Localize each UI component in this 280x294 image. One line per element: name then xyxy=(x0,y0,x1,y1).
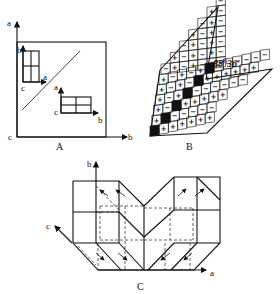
plus-sign: + xyxy=(155,106,161,114)
panel-b: 88°36′ +−+−+−−−−−−+−+−+++++++−+−−−−−−+−+… xyxy=(150,0,272,152)
plus-sign: + xyxy=(161,76,167,84)
lower-cell-label-b: b xyxy=(98,115,103,125)
main-cell xyxy=(161,112,170,123)
main-cell xyxy=(150,125,159,136)
plus-sign: + xyxy=(209,49,215,57)
plus-sign: + xyxy=(190,41,196,49)
axis-label-c: c xyxy=(8,132,12,142)
minus-sign: − xyxy=(188,69,194,77)
plus-sign: + xyxy=(209,29,215,37)
axis-label-c: c xyxy=(46,221,50,231)
minus-sign: − xyxy=(199,20,205,28)
minus-sign: − xyxy=(181,63,187,71)
caption-a: A xyxy=(56,141,64,152)
upper-cell-label-b: b xyxy=(17,45,22,55)
minus-sign: − xyxy=(231,79,237,87)
plus-sign: + xyxy=(192,98,198,106)
plus-sign: + xyxy=(159,86,165,94)
minus-sign: − xyxy=(218,7,224,15)
plus-sign: + xyxy=(190,62,196,70)
minus-sign: − xyxy=(240,76,246,84)
minus-sign: − xyxy=(218,28,224,36)
minus-sign: − xyxy=(199,30,205,38)
plus-sign: + xyxy=(190,52,196,60)
axis-label-b: b xyxy=(87,159,92,169)
sign-grid: +−+−+−−−−−−+−+−+++++++−+−−−−−−+−++++++−−… xyxy=(150,0,269,136)
plus-sign: + xyxy=(175,92,181,100)
caption-b: B xyxy=(186,141,193,152)
lower-cell-label-c: c xyxy=(54,107,58,117)
minus-sign: − xyxy=(212,83,218,91)
plus-sign: + xyxy=(172,54,178,62)
plus-sign: + xyxy=(214,73,220,81)
upper-cell-label-a: a xyxy=(43,72,47,82)
lower-cell-label-a: a xyxy=(54,82,58,92)
minus-sign: − xyxy=(199,40,205,48)
plus-sign: + xyxy=(209,60,215,68)
minus-sign: − xyxy=(218,38,224,46)
axis-label-b: b xyxy=(128,132,133,142)
minus-sign: − xyxy=(199,106,205,114)
minus-sign: − xyxy=(218,59,224,67)
axis-c xyxy=(55,226,72,243)
right-twin-block xyxy=(144,177,220,270)
plus-sign: + xyxy=(177,81,183,89)
plus-sign: + xyxy=(188,118,194,126)
minus-sign: − xyxy=(218,48,224,56)
plus-sign: + xyxy=(179,120,185,128)
minus-sign: − xyxy=(181,42,187,50)
plus-sign: + xyxy=(157,96,163,104)
minus-sign: − xyxy=(172,112,178,120)
minus-sign: − xyxy=(234,58,240,66)
minus-sign: − xyxy=(243,56,249,64)
axis-label-a: a xyxy=(210,268,214,278)
plus-sign: + xyxy=(232,68,238,76)
minus-sign: − xyxy=(170,73,176,81)
minus-sign: − xyxy=(209,104,215,112)
plus-sign: + xyxy=(209,8,215,16)
plus-sign: + xyxy=(153,117,159,125)
minus-sign: − xyxy=(218,17,224,25)
plus-sign: + xyxy=(209,39,215,47)
plus-sign: + xyxy=(220,91,226,99)
minus-sign: − xyxy=(164,104,170,112)
minus-sign: − xyxy=(181,110,187,118)
plus-sign: + xyxy=(161,125,167,133)
plus-sign: + xyxy=(170,123,176,131)
plus-sign: + xyxy=(183,100,189,108)
minus-sign: − xyxy=(199,51,205,59)
plus-sign: + xyxy=(190,31,196,39)
left-twin-block xyxy=(73,181,144,270)
minus-sign: − xyxy=(199,61,205,69)
minus-sign: − xyxy=(181,53,187,61)
main-cell xyxy=(194,75,203,86)
main-cell xyxy=(183,87,192,98)
minus-sign: − xyxy=(186,79,192,87)
minus-sign: − xyxy=(253,54,259,62)
plus-sign: + xyxy=(209,19,215,27)
panel-a: a b c b a c a b c A xyxy=(7,18,133,152)
minus-sign: − xyxy=(166,94,172,102)
minus-sign: − xyxy=(168,84,174,92)
plus-sign: + xyxy=(205,75,211,83)
minus-sign: − xyxy=(262,51,268,59)
plus-sign: + xyxy=(223,70,229,78)
plus-sign: + xyxy=(207,114,213,122)
upper-cell-label-c: c xyxy=(21,83,25,93)
plus-sign: + xyxy=(198,116,204,124)
main-cell xyxy=(172,100,181,111)
panel-c: b c a xyxy=(46,159,220,292)
plus-sign: + xyxy=(172,64,178,72)
minus-sign: − xyxy=(221,81,227,89)
minus-sign: − xyxy=(190,108,196,116)
axis-label-a: a xyxy=(7,18,11,28)
caption-c: C xyxy=(137,281,144,292)
minus-sign: − xyxy=(225,60,231,68)
plus-sign: + xyxy=(242,66,248,74)
plus-sign: + xyxy=(201,95,207,103)
twinning-figure: a b c b a c a b c A 88°36′ +−+−+−−−−−−+−… xyxy=(0,0,280,294)
plus-sign: + xyxy=(251,64,257,72)
minus-sign: − xyxy=(203,85,209,93)
minus-sign: − xyxy=(163,65,169,73)
plus-sign: + xyxy=(210,93,216,101)
